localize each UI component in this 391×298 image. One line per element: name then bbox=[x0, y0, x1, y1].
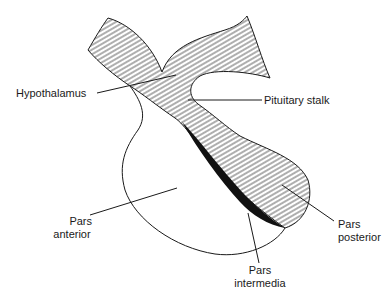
pars-anterior-leader bbox=[90, 188, 177, 215]
pars-intermedia-label-line1: Pars bbox=[232, 264, 288, 277]
pars-intermedia-label: Pars intermedia bbox=[232, 264, 288, 290]
pituitary-diagram bbox=[0, 0, 391, 298]
pars-anterior-label: Pars anterior bbox=[52, 215, 92, 241]
pars-anterior-label-line2: anterior bbox=[52, 228, 92, 241]
pituitary-stalk-label: Pituitary stalk bbox=[264, 94, 329, 107]
pars-anterior-label-line1: Pars bbox=[52, 215, 92, 228]
pars-intermedia-leader bbox=[248, 213, 259, 263]
pars-posterior-label-line1: Pars bbox=[338, 218, 381, 231]
pars-posterior-label: Pars posterior bbox=[338, 218, 381, 244]
hypothalamus-stalk-posterior-shape bbox=[88, 16, 310, 228]
pars-intermedia-label-line2: intermedia bbox=[232, 277, 288, 290]
hypothalamus-label: Hypothalamus bbox=[16, 87, 86, 100]
pars-posterior-label-line2: posterior bbox=[338, 231, 381, 244]
